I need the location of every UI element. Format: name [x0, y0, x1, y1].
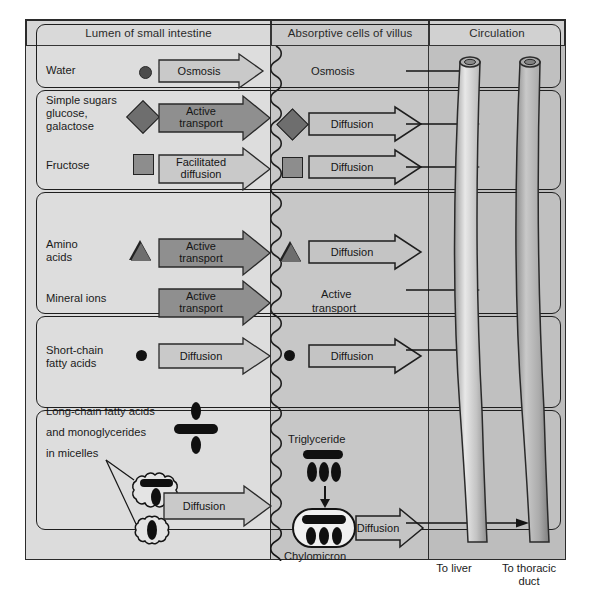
micelle-leader-lines — [104, 458, 154, 534]
triglyceride-icon — [301, 450, 347, 484]
nutrient-label-simple-sugars-line1: Simple sugars — [46, 94, 117, 107]
lumen-arrow-fructose-line1: Facilitated — [176, 156, 226, 168]
cell-mechanism-mineral-ions-line2: transport — [312, 302, 356, 315]
lumen-arrow-amino-acids-line1: Active — [186, 240, 216, 252]
lumen-arrow-amino-acids-line2: transport — [179, 252, 222, 264]
molecule-icon-fructose-square — [133, 154, 154, 175]
lumen-arrow-water: Osmosis — [159, 54, 264, 88]
lumen-arrow-long-chain-fatty-acids-label: Diffusion — [183, 500, 226, 512]
lumen-arrow-simple-sugars-line1: Active — [186, 105, 216, 117]
cell-arrow-chylomicron-label: Diffusion — [357, 522, 400, 534]
vessel-caption-to-thoracic-duct-line2: duct — [484, 575, 574, 588]
lumen-arrow-fructose-line2: diffusion — [181, 168, 222, 180]
cell-mechanism-water: Osmosis — [311, 65, 355, 78]
molecule-icon-amino-acid-triangle-in-cell — [279, 241, 303, 263]
triglyceride-to-chylomicron-arrow — [318, 486, 332, 508]
cell-mechanism-mineral-ions-line1: Active — [321, 288, 351, 301]
nutrient-label-simple-sugars-line2: glucose, — [46, 107, 88, 120]
chylomicron-icon — [292, 508, 356, 548]
vessel-caption-to-liver: To liver — [414, 562, 494, 575]
lumen-arrow-water-label: Osmosis — [178, 65, 221, 77]
lumen-arrow-simple-sugars-line2: transport — [179, 117, 222, 129]
vessel-caption-to-thoracic-duct-line1: To thoracic — [484, 562, 574, 575]
nutrient-label-simple-sugars-line3: galactose — [46, 120, 94, 133]
molecule-icon-fructose-square-in-cell — [282, 157, 303, 178]
lumen-arrow-mineral-ions-line1: Active — [186, 290, 216, 302]
lumen-arrow-fructose: Facilitated diffusion — [159, 148, 271, 190]
diagram-frame: Lumen of small intestine Absorptive cell… — [25, 19, 566, 560]
nutrient-label-long-chain-fatty-acids-line3: in micelles — [46, 447, 98, 460]
nutrient-label-short-chain-fatty-acids-line2: fatty acids — [46, 357, 96, 370]
blood-capillary-vessel — [450, 50, 506, 550]
nutrient-label-amino-acids-line2: acids — [46, 251, 72, 264]
nutrient-label-amino-acids-line1: Amino — [46, 238, 78, 251]
molecule-icon-fatty-acid-monoglyceride-key — [172, 402, 222, 454]
cell-arrow-simple-sugars-label: Diffusion — [331, 118, 374, 130]
lumen-arrow-mineral-ions-line2: transport — [179, 302, 222, 314]
cell-arrow-amino-acids: Diffusion — [309, 235, 422, 269]
molecule-icon-short-chain-fatty-acid-in-cell — [284, 350, 295, 361]
triglyceride-label: Triglyceride — [288, 433, 345, 446]
lumen-arrow-mineral-ions: Active transport — [159, 281, 271, 325]
lumen-arrow-long-chain-fatty-acids: Diffusion — [164, 486, 272, 526]
cell-arrow-short-chain-fatty-acids-label: Diffusion — [331, 350, 374, 362]
diagram-canvas: Lumen of small intestine Absorptive cell… — [0, 0, 592, 592]
nutrient-label-short-chain-fatty-acids-line1: Short-chain — [46, 344, 103, 357]
molecule-icon-short-chain-fatty-acid — [136, 350, 147, 361]
lumen-arrow-short-chain-fatty-acids: Diffusion — [159, 338, 271, 374]
lumen-arrow-short-chain-fatty-acids-label: Diffusion — [180, 350, 223, 362]
nutrient-label-long-chain-fatty-acids-line1: Long-chain fatty acids — [46, 405, 155, 418]
cell-arrow-fructose-label: Diffusion — [331, 161, 374, 173]
cell-arrow-amino-acids-label: Diffusion — [331, 246, 374, 258]
lumen-arrow-amino-acids: Active transport — [159, 231, 271, 275]
nutrient-label-fructose: Fructose — [46, 159, 90, 172]
molecule-icon-water — [139, 66, 152, 79]
nutrient-label-long-chain-fatty-acids-line2: and monoglycerides — [46, 426, 146, 439]
lacteal-lymph-vessel — [510, 50, 566, 550]
nutrient-label-water: Water — [46, 64, 75, 77]
lumen-arrow-simple-sugars: Active transport — [159, 96, 271, 140]
chylomicron-label: Chylomicron — [284, 550, 346, 563]
nutrient-label-mineral-ions: Mineral ions — [46, 292, 106, 305]
molecule-icon-amino-acid-triangle — [129, 240, 153, 262]
